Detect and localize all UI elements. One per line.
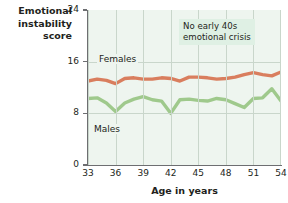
gridline-vertical bbox=[171, 10, 172, 165]
y-tick-mark bbox=[83, 61, 87, 62]
y-tick-mark bbox=[83, 113, 87, 114]
y-axis-line bbox=[87, 10, 88, 166]
x-tick-label: 48 bbox=[214, 168, 238, 178]
gridline-vertical bbox=[280, 10, 281, 165]
y-tick-label: 16 bbox=[57, 56, 79, 66]
x-tick-label: 45 bbox=[186, 168, 210, 178]
y-tick-label: 24 bbox=[57, 4, 79, 14]
series-label-females: Females bbox=[97, 54, 138, 64]
y-tick-mark bbox=[83, 9, 87, 10]
annotation-line-1: No early 40s bbox=[183, 21, 251, 32]
y-tick-label: 8 bbox=[57, 107, 79, 117]
annotation-no-early-40s-crisis: No early 40s emotional crisis bbox=[179, 19, 255, 45]
x-tick-label: 54 bbox=[269, 168, 288, 178]
x-tick-label: 42 bbox=[159, 168, 183, 178]
chart-figure: Emotional instability score 081624 33363… bbox=[0, 0, 288, 203]
gridline-vertical bbox=[116, 10, 117, 165]
gridline-vertical bbox=[143, 10, 144, 165]
x-axis-title: Age in years bbox=[88, 185, 281, 196]
y-tick-mark bbox=[83, 164, 87, 165]
x-axis-line bbox=[87, 165, 282, 166]
x-tick-label: 33 bbox=[76, 168, 100, 178]
annotation-line-2: emotional crisis bbox=[183, 32, 251, 43]
x-tick-label: 51 bbox=[241, 168, 265, 178]
series-label-males: Males bbox=[92, 124, 122, 134]
gridline-horizontal bbox=[88, 113, 281, 114]
x-tick-label: 36 bbox=[104, 168, 128, 178]
x-tick-label: 39 bbox=[131, 168, 155, 178]
